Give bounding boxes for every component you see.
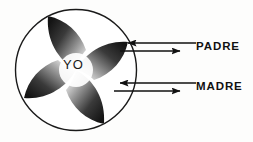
label-padre: PADRE xyxy=(196,40,240,52)
diagram-svg xyxy=(0,0,253,142)
label-madre: MADRE xyxy=(196,80,243,92)
diagram-canvas: YO PADRE MADRE xyxy=(0,0,253,142)
center-label-yo: YO xyxy=(63,57,84,72)
